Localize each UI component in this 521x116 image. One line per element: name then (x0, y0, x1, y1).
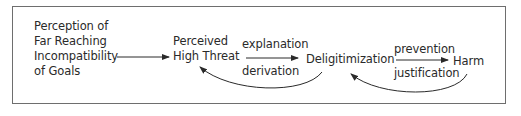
arrow-delegitimization-to-threat (200, 67, 322, 88)
arrows-layer (0, 0, 521, 116)
arrow-harm-to-delegitimization (351, 74, 467, 92)
